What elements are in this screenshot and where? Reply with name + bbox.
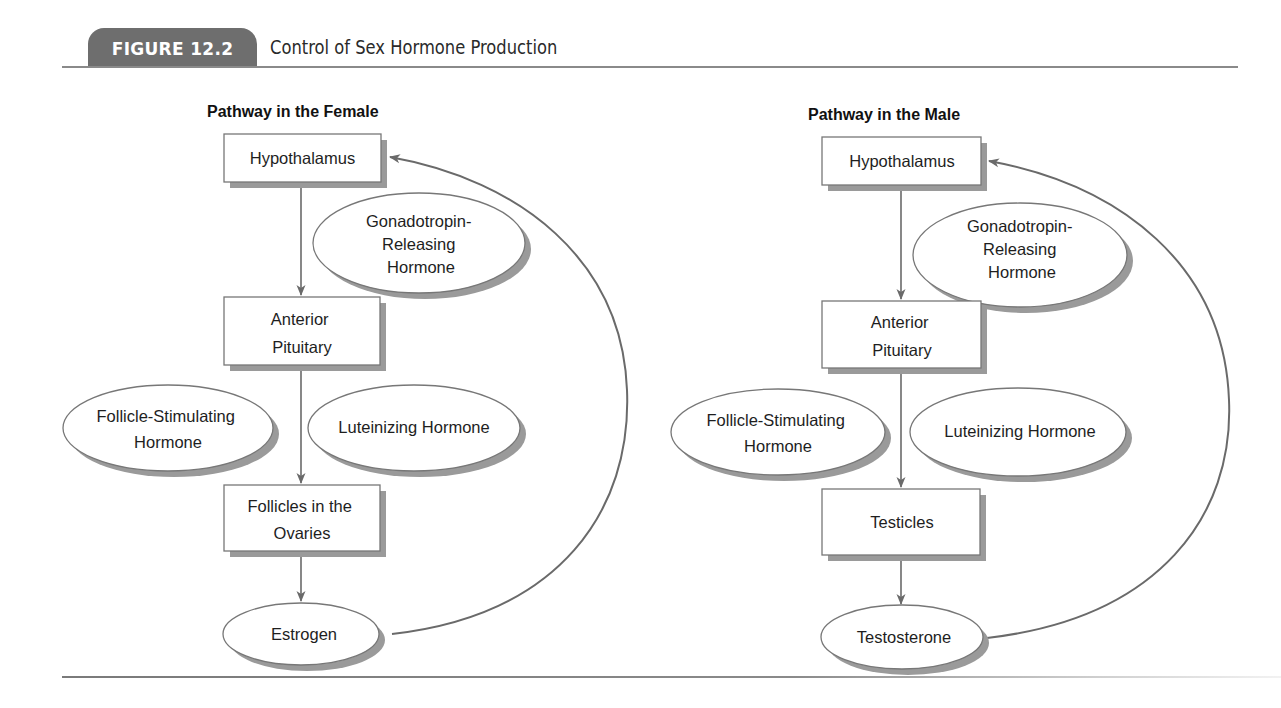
svg-text:Testicles: Testicles xyxy=(870,513,933,531)
female-fsh-node: Follicle-Stimulating Hormone xyxy=(63,385,279,477)
svg-text:Estrogen: Estrogen xyxy=(271,625,337,643)
svg-text:Hypothalamus: Hypothalamus xyxy=(250,149,355,167)
female-gnrh-line-2: Releasing xyxy=(382,235,455,253)
svg-text:Luteinizing Hormone: Luteinizing Hormone xyxy=(338,418,489,436)
female-gnrh-line-1: Gonadotropin- xyxy=(366,212,472,230)
female-estrogen-label: Estrogen xyxy=(271,625,337,643)
female-lh-node: Luteinizing Hormone xyxy=(308,385,526,477)
male-gnrh-node: Gonadotropin- Releasing Hormone xyxy=(913,203,1133,313)
bottom-divider xyxy=(62,676,1281,678)
male-lh-label: Luteinizing Hormone xyxy=(944,422,1095,440)
male-gnrh-line-1: Gonadotropin- xyxy=(967,217,1073,235)
female-follicles-line-1: Follicles in the xyxy=(247,497,352,515)
female-gnrh-node: Gonadotropin- Releasing Hormone xyxy=(313,193,531,299)
female-anterior-pituitary-node: Anterior Pituitary xyxy=(224,297,386,371)
female-fsh-line-2: Hormone xyxy=(134,433,202,451)
svg-text:Hypothalamus: Hypothalamus xyxy=(849,152,954,170)
female-lh-label: Luteinizing Hormone xyxy=(338,418,489,436)
male-fsh-line-2: Hormone xyxy=(744,437,812,455)
male-fsh-line-1: Follicle-Stimulating xyxy=(706,411,844,429)
male-gnrh-line-3: Hormone xyxy=(988,263,1056,281)
male-testicles-label: Testicles xyxy=(870,513,933,531)
female-pituitary-line-2: Pituitary xyxy=(272,338,332,356)
female-estrogen-node: Estrogen xyxy=(223,603,385,671)
svg-text:Testosterone: Testosterone xyxy=(857,628,951,646)
male-pituitary-line-1: Anterior xyxy=(871,313,929,331)
female-hypothalamus-node: Hypothalamus xyxy=(224,134,387,188)
male-pathway: Hypothalamus Gonadotropin- Releasing Hor… xyxy=(671,137,1229,675)
female-follicles-node: Follicles in the Ovaries xyxy=(224,485,386,557)
male-pituitary-line-2: Pituitary xyxy=(872,341,932,359)
male-fsh-node: Follicle-Stimulating Hormone xyxy=(671,389,891,481)
female-pathway: Hypothalamus Gonadotropin- Releasing Hor… xyxy=(63,134,627,671)
male-lh-node: Luteinizing Hormone xyxy=(910,388,1132,482)
male-anterior-pituitary-node: Anterior Pituitary xyxy=(822,301,987,374)
male-testicles-node: Testicles xyxy=(822,489,986,561)
female-follicles-line-2: Ovaries xyxy=(274,524,331,542)
male-testosterone-node: Testosterone xyxy=(821,605,989,675)
female-gnrh-line-3: Hormone xyxy=(387,258,455,276)
hormone-pathway-diagram: Hypothalamus Gonadotropin- Releasing Hor… xyxy=(0,0,1281,708)
male-hypothalamus-label: Hypothalamus xyxy=(849,152,954,170)
male-gnrh-line-2: Releasing xyxy=(983,240,1056,258)
svg-text:Luteinizing Hormone: Luteinizing Hormone xyxy=(944,422,1095,440)
female-pituitary-line-1: Anterior xyxy=(271,310,329,328)
female-fsh-line-1: Follicle-Stimulating xyxy=(96,407,234,425)
female-hypothalamus-label: Hypothalamus xyxy=(250,149,355,167)
male-hypothalamus-node: Hypothalamus xyxy=(822,137,987,191)
male-testosterone-label: Testosterone xyxy=(857,628,951,646)
